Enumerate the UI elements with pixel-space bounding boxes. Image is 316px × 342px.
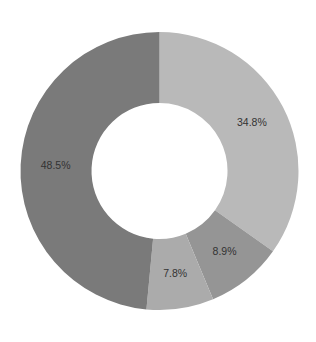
slice-label: 34.8% [237,116,267,128]
slice-label: 7.8% [163,267,187,279]
slice-label: 8.9% [213,245,237,257]
donut-chart: 34.8%8.9%7.8%48.5% [0,0,316,342]
donut-slices [20,32,298,310]
donut-slice [160,32,299,251]
donut-chart-svg: 34.8%8.9%7.8%48.5% [0,0,316,342]
slice-label: 48.5% [41,159,71,171]
